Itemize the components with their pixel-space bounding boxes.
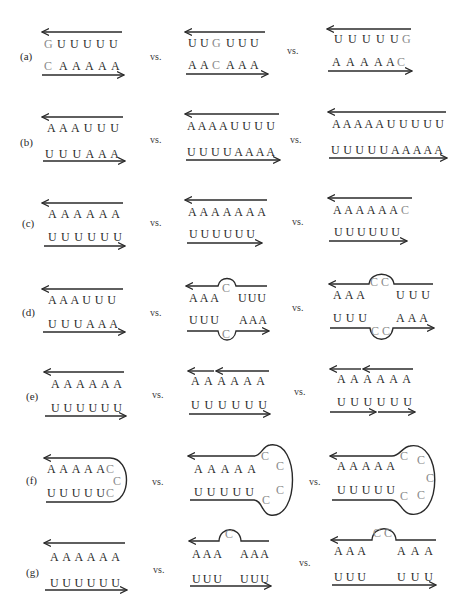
loop-c: C <box>276 483 284 497</box>
top-sequence: A A A A A A <box>51 377 122 391</box>
loop-c: C <box>262 493 270 507</box>
top-sequence: A A A A U U U U <box>187 119 275 133</box>
bottom-sequence: U U U U U U <box>189 227 255 241</box>
top-sequence: UUUUUG <box>334 32 411 46</box>
stem-top-sequence: A A A A A <box>337 459 395 473</box>
top-right-sequence: U U U <box>396 288 430 302</box>
panel-e: (e) A A A A A A U U U U U U vs. A A A A … <box>26 369 415 416</box>
bottom-sequence: U U U U U U <box>337 395 412 409</box>
top-sequence: A A A A A A A <box>188 205 266 219</box>
bottom-right-sequence: A A A <box>396 311 428 325</box>
loop-cc: C C <box>371 324 390 338</box>
loop-c: C <box>400 449 408 463</box>
top-right-sequence: A A A <box>397 544 433 558</box>
panel-label: (b) <box>20 136 33 149</box>
panel-label: (a) <box>20 50 33 63</box>
top-sequence: GUUUUU <box>44 37 118 51</box>
top-right-sequence: A A A <box>240 547 269 561</box>
variant-d2: C A A A U U U U U U A A A C <box>186 279 269 342</box>
vs-label: vs. <box>287 45 298 56</box>
variant-f1: A A A A A U U U U U C C C <box>44 458 127 502</box>
vs-label: vs. <box>150 307 161 318</box>
top-sequence: UUGUUU <box>188 36 259 50</box>
loop-c: C <box>426 471 434 485</box>
hairpin-strand-icon <box>188 445 293 515</box>
vs-label: vs. <box>150 51 161 62</box>
bottom-sequence: U U U U U A A A A A <box>331 143 443 157</box>
top-sequence: A A A U U U <box>47 121 119 135</box>
bottom-sequence: U U U U U U <box>48 230 122 244</box>
top-sequence: A A A A A U U U U U <box>332 117 444 131</box>
panel-label: (e) <box>26 390 39 403</box>
variant-g3: C C A A A A A A U U U U U U <box>331 526 436 585</box>
bottom-sequence: AACAAA <box>188 58 259 72</box>
bottom-sequence: U U U A A A <box>48 317 118 331</box>
panel-label: (f) <box>26 474 37 487</box>
top-left-sequence: A A A <box>333 288 365 302</box>
bottom-left-sequence: U U U <box>334 570 366 584</box>
panel-d: (d) A A A U U U U U U A A A vs. C A A A … <box>22 274 434 341</box>
vs-label: vs. <box>152 389 163 400</box>
bottom-sequence: U U U A A A <box>45 147 119 161</box>
bottom-left-sequence: U U U <box>333 311 367 325</box>
loop-c: C <box>417 488 425 502</box>
vs-label: vs. <box>299 557 310 568</box>
loop-cc: C C <box>370 275 389 289</box>
vs-label: vs. <box>150 134 161 145</box>
top-sequence: A A A A A A <box>333 203 398 217</box>
vs-label: vs. <box>150 217 161 228</box>
bottom-sequence: U U U U U U <box>334 225 400 239</box>
vs-label: vs. <box>294 386 305 397</box>
stem-bottom-sequence: U U U U U <box>194 485 254 499</box>
vs-label: vs. <box>309 476 320 487</box>
panel-f: (f) A A A A A U U U U U C C C vs. A A A … <box>26 445 435 515</box>
loop-c: C <box>400 489 408 503</box>
top-sequence: A A A A A A <box>337 372 411 386</box>
vs-label: vs. <box>292 302 303 313</box>
loop-c: C <box>222 281 230 295</box>
top-sequence: A A A A A A <box>191 374 265 388</box>
top-sequence: A A A A A A <box>48 207 120 221</box>
top-left-sequence: A A A <box>192 547 222 561</box>
top-right-sequence: U U U <box>238 291 266 305</box>
dangling-c: C <box>401 203 409 217</box>
loop-c: C <box>276 459 284 473</box>
bottom-sequence: U U U U U U <box>191 398 267 412</box>
vs-label: vs. <box>290 134 301 145</box>
vs-label: vs. <box>152 476 163 487</box>
loop-c: C <box>222 327 230 341</box>
panel-b: (b) A A A U U U U U U A A A vs. A A A A … <box>20 112 447 161</box>
bottom-right-sequence: A A A <box>239 313 267 327</box>
bottom-right-sequence: U U U <box>240 572 269 586</box>
loop-c: C <box>417 453 425 467</box>
stem-bottom-sequence: U U U U U <box>47 486 105 500</box>
panel-a: (a) GUUUUU CAAAAA vs. UUGUUU AACAAA vs. <box>20 29 412 75</box>
stem-top-sequence: A A A A A <box>194 462 256 476</box>
top-sequence: A A A U U U <box>48 293 116 307</box>
bottom-sequence: CAAAAA <box>44 59 120 73</box>
bottom-sequence: U U U U A A A A <box>187 145 275 159</box>
stem-top-sequence: A A A A A <box>47 462 105 476</box>
top-left-sequence: A A A <box>334 544 366 558</box>
variant-d3: C C A A A U U U U U U A A A C C <box>329 274 434 339</box>
vs-label: vs. <box>292 216 303 227</box>
loop-c: C <box>113 474 121 488</box>
variant-a1: GUUUUU CAAAAA <box>42 32 124 75</box>
panel-label: (c) <box>22 217 35 230</box>
bottom-sequence: AAAAAC <box>332 55 405 69</box>
bottom-sequence: U U U U U U <box>50 576 120 590</box>
bottom-right-sequence: U U U <box>397 570 433 584</box>
top-sequence: A A A A A A <box>50 550 120 564</box>
stem-bottom-sequence: U U U U U <box>337 483 395 497</box>
bottom-left-sequence: U U U <box>189 313 219 327</box>
bottom-sequence: U U U U U U <box>51 401 122 415</box>
panel-label: (g) <box>26 566 39 579</box>
bottom-left-sequence: U U U <box>192 572 222 586</box>
variant-a2: UUGUUU AACAAA <box>185 32 268 74</box>
loop-c: C <box>106 486 114 500</box>
variant-f3: A A A A A U U U U U C C C C C <box>330 446 435 515</box>
panel-c: (c) A A A A A A U U U U U U vs. A A A A … <box>22 198 412 246</box>
rna-duplex-comparison-figure: (a) GUUUUU CAAAAA vs. UUGUUU AACAAA vs. <box>0 0 468 608</box>
panel-g: (g) A A A A A A U U U U U U vs. C A A A … <box>26 526 436 590</box>
vs-label: vs. <box>153 564 164 575</box>
